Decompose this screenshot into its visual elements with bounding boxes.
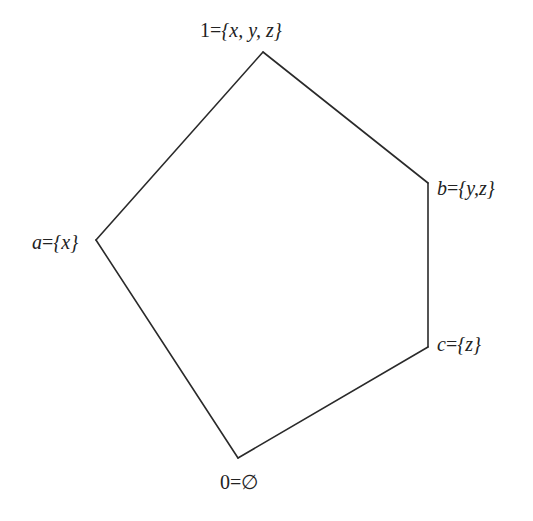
edge-a-top xyxy=(96,52,263,240)
edge-top-b xyxy=(263,52,428,183)
label-bottom-eq: = xyxy=(230,471,241,493)
label-top-prefix: 1 xyxy=(200,19,210,41)
label-a-eq: = xyxy=(42,231,53,253)
label-c-prefix: c xyxy=(437,333,446,355)
label-a-set: {x} xyxy=(53,231,78,253)
label-b-eq: = xyxy=(447,177,458,199)
label-b: b={y,z} xyxy=(437,178,495,198)
label-a: a={x} xyxy=(32,232,78,252)
label-b-set: {y,z} xyxy=(458,177,495,199)
label-top-eq: = xyxy=(210,19,221,41)
label-top-set: {x, y, z} xyxy=(221,19,281,41)
edge-bottom-a xyxy=(96,240,238,458)
label-b-prefix: b xyxy=(437,177,447,199)
edge-c-bottom xyxy=(238,347,428,458)
label-top: 1={x, y, z} xyxy=(200,20,282,40)
label-c-set: {z} xyxy=(457,333,481,355)
label-bottom: 0=∅ xyxy=(220,472,258,492)
lattice-diagram xyxy=(0,0,533,521)
label-bottom-set: ∅ xyxy=(241,471,258,493)
lattice-edges xyxy=(96,52,428,458)
label-bottom-prefix: 0 xyxy=(220,471,230,493)
label-a-prefix: a xyxy=(32,231,42,253)
label-c: c={z} xyxy=(437,334,481,354)
label-c-eq: = xyxy=(446,333,457,355)
